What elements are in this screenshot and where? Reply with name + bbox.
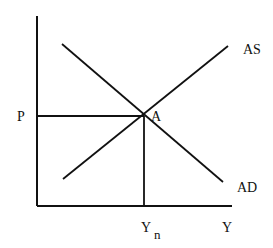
ad-label: AD: [237, 180, 257, 195]
x-axis-label: Y: [222, 220, 232, 235]
equilibrium-label: A: [151, 109, 162, 124]
as-label: AS: [243, 42, 261, 57]
output-label: Y: [141, 220, 151, 235]
as-ad-diagram: AS AD A P Y n Y: [0, 0, 273, 248]
price-label: P: [17, 109, 25, 124]
output-subscript: n: [154, 227, 161, 242]
